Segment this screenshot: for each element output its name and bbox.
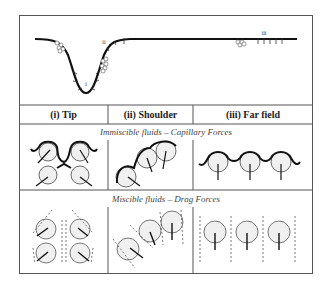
drag-row — [33, 210, 295, 268]
column-header-far-field: (iii) Far field — [193, 106, 313, 124]
interface-curve: i ii iii — [35, 30, 297, 93]
label-far-field: iii — [261, 30, 266, 36]
label-tip: i — [85, 81, 87, 87]
force-ticks — [72, 38, 282, 90]
grain-cluster-shoulder — [100, 57, 108, 73]
capillary-row — [31, 141, 300, 187]
column-header-tip: (i) Tip — [19, 106, 108, 124]
grain-cluster-far — [236, 40, 246, 47]
diagram-canvas: i ii iii — [0, 0, 326, 285]
row-title-drag: Miscible fluids – Drag Forces — [19, 194, 313, 204]
column-header-shoulder: (ii) Shoulder — [108, 106, 193, 124]
row-title-capillary: Immiscible fluids – Capillary Forces — [19, 127, 313, 137]
label-shoulder: ii — [102, 39, 106, 45]
